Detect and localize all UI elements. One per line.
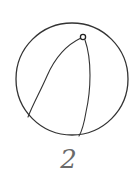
pole-point: [80, 34, 85, 39]
primitive-circle: [16, 23, 128, 135]
diagram-figure: 2: [0, 0, 137, 179]
right-great-circle-arc: [79, 40, 90, 136]
left-great-circle-arc: [28, 38, 81, 117]
figure-label: 2: [0, 144, 137, 174]
